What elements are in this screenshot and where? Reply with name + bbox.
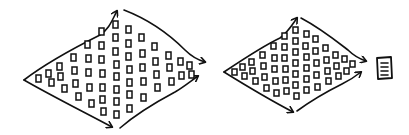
diamond-2 <box>224 18 366 112</box>
diamond-1 <box>24 10 205 128</box>
diverge-bottom-arrow <box>24 80 112 127</box>
double-diamond-diagram: Double diamond process Diverge then conv… <box>0 0 409 135</box>
document-icon <box>377 57 392 79</box>
converge-top-arrow <box>124 10 205 62</box>
idea-boxes-1 <box>36 21 194 118</box>
diagram-svg <box>0 0 409 135</box>
